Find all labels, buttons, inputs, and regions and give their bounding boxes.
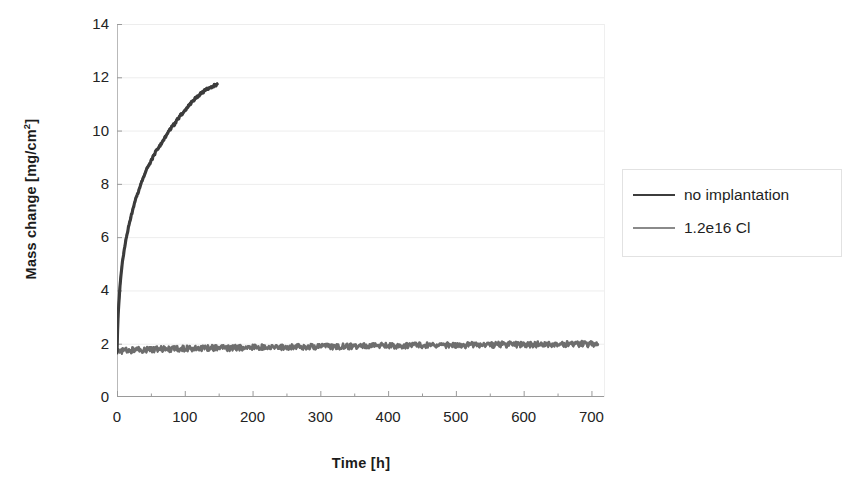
chart-figure: Mass change [mg/cm2] 02468101214 0100200… xyxy=(0,0,854,497)
x-tick-label: 100 xyxy=(162,409,208,424)
series-line-no-implantation xyxy=(117,84,217,353)
legend-box: no implantation 1.2e16 Cl xyxy=(622,169,842,257)
legend-item-no-implantation: no implantation xyxy=(633,185,789,205)
x-tick-label: 0 xyxy=(94,409,140,424)
x-tick-label: 400 xyxy=(365,409,411,424)
legend-item-implanted: 1.2e16 Cl xyxy=(633,218,750,238)
y-tick-label: 4 xyxy=(67,282,109,297)
legend-swatch-implanted xyxy=(633,227,675,229)
x-axis-title: Time [h] xyxy=(117,455,605,471)
legend-swatch-no-implantation xyxy=(633,194,675,196)
plot-area xyxy=(117,24,605,397)
legend-label-implanted: 1.2e16 Cl xyxy=(684,219,750,237)
y-tick-label: 10 xyxy=(67,123,109,138)
y-tick-label: 6 xyxy=(67,229,109,244)
y-tick-label: 12 xyxy=(67,69,109,84)
y-tick-label: 14 xyxy=(67,16,109,31)
x-tick-label: 300 xyxy=(297,409,343,424)
y-tick-label: 8 xyxy=(67,176,109,191)
y-axis-title: Mass change [mg/cm2] xyxy=(21,49,43,349)
x-tick-label: 200 xyxy=(230,409,276,424)
legend-label-no-implantation: no implantation xyxy=(684,186,789,204)
x-tick-label: 500 xyxy=(433,409,479,424)
y-tick-label: 0 xyxy=(67,389,109,404)
plot-canvas xyxy=(117,24,605,397)
x-tick-label: 600 xyxy=(501,409,547,424)
x-tick-label: 700 xyxy=(568,409,614,424)
y-axis-title-text: Mass change [mg/cm2] xyxy=(23,119,39,280)
y-tick-label: 2 xyxy=(67,336,109,351)
